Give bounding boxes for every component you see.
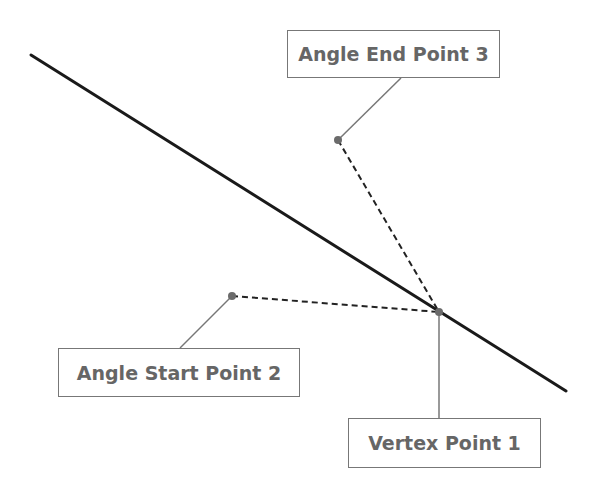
vertex-point-label-text: Vertex Point 1 [368,432,521,454]
start-point-label: Angle Start Point 2 [58,348,300,397]
start-point-marker [228,292,236,300]
start-point-label-text: Angle Start Point 2 [77,362,281,384]
end-leader-line [338,78,401,140]
end-point-marker [334,136,342,144]
end-arm-dashed [338,140,439,312]
end-point-label-text: Angle End Point 3 [298,43,489,65]
end-point-label: Angle End Point 3 [287,30,500,78]
start-arm-dashed [232,296,439,312]
start-leader-line [180,296,232,348]
vertex-point-marker [435,308,443,316]
reference-line [31,55,566,391]
vertex-point-label: Vertex Point 1 [348,418,541,468]
